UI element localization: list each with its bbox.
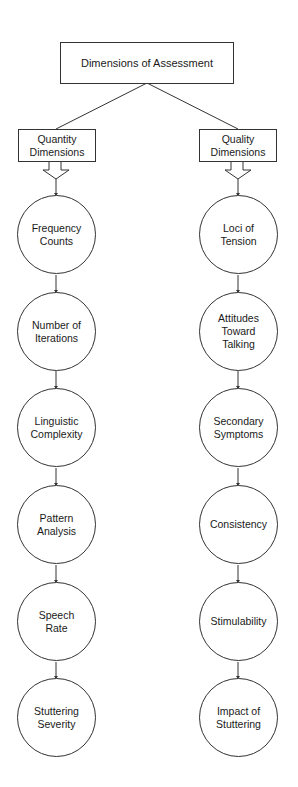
node-label: Loci of Tension	[220, 222, 256, 248]
node-label: Stuttering Severity	[34, 705, 79, 731]
node-label: Consistency	[210, 518, 267, 531]
node-stuttering-severity: Stuttering Severity	[17, 678, 96, 757]
node-stimulability: Stimulability	[199, 582, 278, 661]
node-label: Attitudes Toward Talking	[218, 312, 259, 351]
node-label: Number of Iterations	[32, 319, 81, 345]
node-speech-rate: Speech Rate	[17, 582, 96, 661]
node-label: Secondary Symptoms	[213, 415, 263, 441]
node-linguistic-complexity: Linguistic Complexity	[17, 388, 96, 467]
node-label: Linguistic Complexity	[31, 415, 83, 441]
root-node: Dimensions of Assessment	[60, 42, 234, 84]
node-secondary-symptoms: Secondary Symptoms	[199, 388, 278, 467]
quality-dimensions-label: Quality Dimensions	[211, 133, 266, 159]
quality-dimensions-node: Quality Dimensions	[199, 129, 277, 162]
node-number-of-iterations: Number of Iterations	[17, 292, 96, 371]
node-label: Impact of Stuttering	[216, 705, 261, 731]
node-pattern-analysis: Pattern Analysis	[17, 485, 96, 564]
node-label: Speech Rate	[39, 609, 75, 635]
node-label: Stimulability	[210, 615, 266, 628]
node-loci-of-tension: Loci of Tension	[199, 195, 278, 274]
root-label: Dimensions of Assessment	[81, 57, 213, 70]
quantity-dimensions-node: Quantity Dimensions	[18, 129, 96, 162]
node-attitudes-toward-talking: Attitudes Toward Talking	[199, 292, 278, 371]
node-impact-of-stuttering: Impact of Stuttering	[199, 678, 278, 757]
node-frequency-counts: Frequency Counts	[17, 195, 96, 274]
node-label: Frequency Counts	[32, 222, 82, 248]
node-consistency: Consistency	[199, 485, 278, 564]
quantity-dimensions-label: Quantity Dimensions	[30, 133, 85, 159]
node-label: Pattern Analysis	[37, 512, 76, 538]
